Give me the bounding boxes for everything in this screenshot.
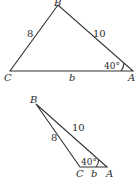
side-label-bc-bottom: 8	[51, 132, 57, 143]
triangle-bottom: B C A 8 10 b 40°	[29, 94, 113, 179]
triangle-top: B C A 8 10 b 40°	[4, 0, 135, 83]
side-label-ba-bottom: 10	[72, 122, 85, 133]
triangle-diagram: B C A 8 10 b 40° B C A 8 10 b 40°	[0, 0, 139, 192]
side-label-bc-top: 8	[27, 28, 33, 39]
side-label-ca-top: b	[69, 72, 75, 83]
vertex-label-c-bottom: C	[76, 168, 84, 179]
angle-label-a-bottom: 40°	[81, 157, 97, 167]
vertex-label-c-top: C	[4, 72, 12, 83]
angle-label-a-top: 40°	[104, 61, 120, 71]
vertex-label-a-bottom: A	[105, 168, 113, 179]
side-label-ba-top: 10	[93, 28, 106, 39]
side-label-ca-bottom: b	[91, 168, 97, 179]
angle-arc-a-top	[121, 63, 124, 71]
vertex-label-b-top: B	[53, 0, 61, 8]
vertex-label-b-bottom: B	[29, 94, 37, 105]
vertex-label-a-top: A	[127, 72, 135, 83]
